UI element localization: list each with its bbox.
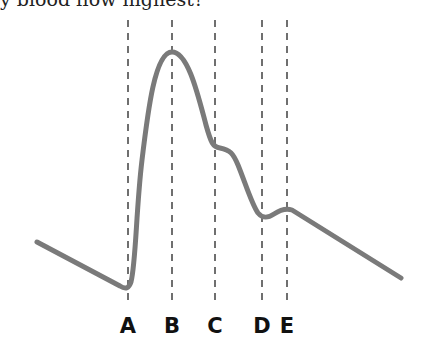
guide-lines — [128, 20, 287, 305]
waveform-diagram: A B C D E — [0, 0, 424, 341]
marker-labels: A B C D E — [120, 314, 294, 338]
marker-label-e: E — [280, 314, 294, 338]
marker-label-a: A — [120, 314, 137, 338]
marker-label-d: D — [253, 314, 270, 338]
flow-curve — [37, 52, 401, 288]
marker-label-b: B — [164, 314, 180, 338]
marker-label-c: C — [207, 314, 222, 338]
